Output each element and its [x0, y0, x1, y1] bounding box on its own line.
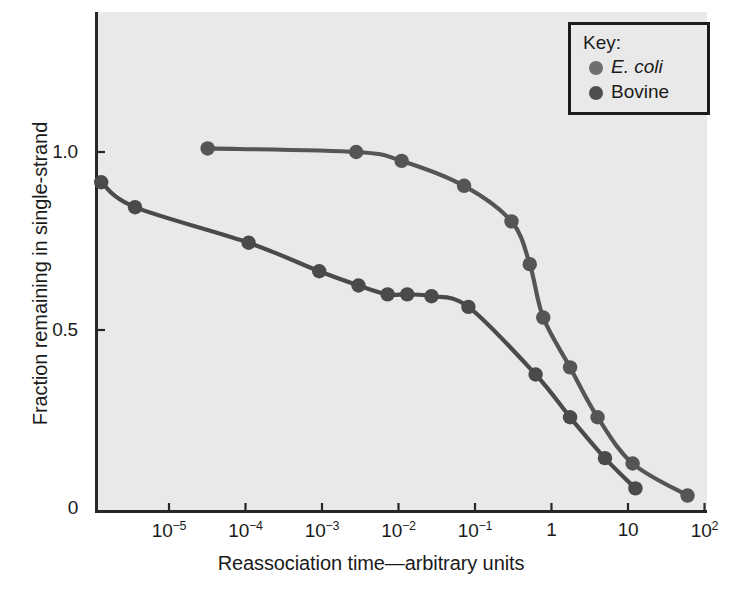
legend-swatch-ecoli: [589, 61, 603, 75]
y-tick-label: 0.5: [52, 319, 78, 341]
x-tick-label: 10−5: [152, 519, 186, 542]
y-axis-title: Fraction remaining in single-strand: [29, 64, 52, 484]
legend-item-bovine: Bovine: [583, 82, 697, 103]
y-tick-label: 1.0: [52, 141, 78, 163]
y-tick-label: 0: [68, 497, 78, 519]
legend-title: Key:: [583, 32, 697, 53]
x-tick-label: 10−3: [305, 519, 339, 542]
x-axis-title: Reassociation time—arbitrary units: [0, 552, 742, 575]
chart-figure: 10−510−410−310−210−1110102 1.00.50 Reass…: [0, 0, 742, 592]
legend-label-ecoli: E. coli: [611, 57, 663, 78]
legend-swatch-bovine: [589, 86, 603, 100]
x-tick-label: 10−2: [381, 519, 415, 542]
x-tick-label: 10−1: [458, 519, 492, 542]
x-axis-tick-labels: 10−510−410−310−210−1110102: [0, 519, 742, 549]
x-tick-label: 10: [618, 519, 639, 541]
x-tick-label: 10−4: [228, 519, 262, 542]
legend-item-ecoli: E. coli: [583, 57, 697, 78]
legend-label-bovine: Bovine: [611, 82, 669, 103]
x-tick-label: 1: [546, 519, 556, 541]
legend: Key: E. coli Bovine: [568, 22, 710, 115]
x-tick-label: 102: [691, 519, 718, 542]
